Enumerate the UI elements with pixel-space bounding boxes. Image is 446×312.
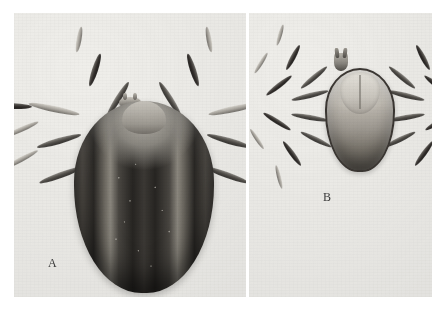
tick-b-scutum [340,72,380,114]
tick-b-idiosoma [325,68,395,172]
tick-figure-b: B [249,13,432,297]
tick-a-idiosoma [74,101,214,293]
tick-b-capitulum [334,53,348,71]
figure-panel-a: A [14,13,246,297]
figure-label-b: B [323,191,332,203]
illustration-plate: A [0,0,446,312]
tick-figure-a: A [14,13,246,297]
figure-panel-b: B [249,13,432,297]
figure-label-a: A [48,257,57,269]
tick-a-scutum [122,101,167,134]
